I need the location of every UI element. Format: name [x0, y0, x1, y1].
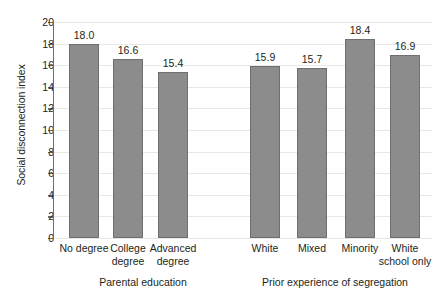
- bar-value-label: 18.4: [338, 25, 382, 36]
- bar: [297, 68, 327, 238]
- y-axis-tick-label: 4: [10, 190, 54, 201]
- y-axis-tick-label: 18: [10, 39, 54, 50]
- bar: [113, 59, 143, 238]
- gridline: [54, 173, 432, 174]
- y-axis-tick-label: 8: [10, 147, 54, 158]
- gridline: [54, 87, 432, 88]
- y-axis-tick-label: 14: [10, 82, 54, 93]
- y-axis-tick-label: 0: [10, 233, 54, 244]
- bar: [390, 55, 420, 238]
- y-axis-tick-label: 16: [10, 60, 54, 71]
- bar-value-label: 15.9: [243, 52, 287, 63]
- bar-value-label: 16.6: [106, 45, 150, 56]
- x-axis-category-label-line: Advanced: [145, 242, 201, 255]
- gridline: [54, 238, 432, 239]
- gridline: [54, 65, 432, 66]
- bar: [158, 72, 188, 238]
- x-axis-category-label-line: school only: [377, 255, 433, 268]
- group-title-prior-experience: Prior experience of segregation: [238, 276, 432, 288]
- x-axis-category-label-line: White: [377, 242, 433, 255]
- bar-value-label: 15.7: [290, 54, 334, 65]
- x-axis-category-label: Advanceddegree: [145, 242, 201, 267]
- bar-chart: Social disconnection index 2018161412108…: [0, 0, 437, 300]
- bar-value-label: 18.0: [62, 30, 106, 41]
- gridline: [54, 130, 432, 131]
- bar: [250, 66, 280, 238]
- y-axis-tick-label: 20: [10, 17, 54, 28]
- bar: [69, 44, 99, 238]
- x-axis-category-label: Whiteschool only: [377, 242, 433, 267]
- gridline: [54, 22, 432, 23]
- gridline: [54, 108, 432, 109]
- gridline: [54, 216, 432, 217]
- x-axis-category-label-line: degree: [145, 255, 201, 268]
- bar-value-label: 16.9: [383, 41, 427, 52]
- y-axis-tick-label: 10: [10, 125, 54, 136]
- y-axis-tick-label: 2: [10, 211, 54, 222]
- y-axis-tick-label: 6: [10, 168, 54, 179]
- y-axis: 20181614121086420: [0, 0, 54, 300]
- y-axis-tick-label: 12: [10, 103, 54, 114]
- gridline: [54, 195, 432, 196]
- bar-value-label: 15.4: [151, 58, 195, 69]
- gridline: [54, 152, 432, 153]
- group-title-parental-education: Parental education: [54, 276, 232, 288]
- bar: [345, 39, 375, 238]
